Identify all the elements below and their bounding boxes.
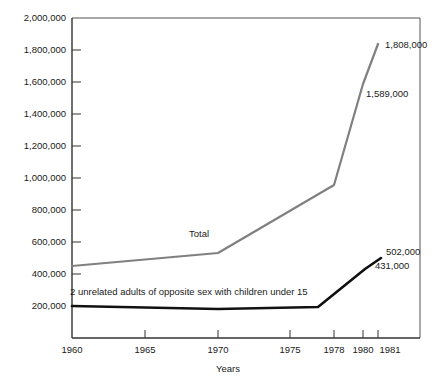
data-label-unrelated-1981: 502,000 [386, 246, 420, 257]
y-tick-label-400000: 400,000 [32, 268, 66, 279]
series-label-total: Total [189, 228, 209, 239]
x-tick-label-1980: 1980 [352, 344, 373, 355]
data-label-total-1981: 1,808,000 [385, 39, 427, 50]
x-axis-title: Years [216, 363, 240, 374]
x-tick-label-1960: 1960 [61, 344, 82, 355]
y-tick-label-1800000: 1,800,000 [24, 44, 66, 55]
y-tick-label-1000000: 1,000,000 [24, 172, 66, 183]
y-tick-label-2000000: 2,000,000 [24, 12, 66, 23]
y-tick-label-200000: 200,000 [32, 300, 66, 311]
x-tick-label-1965: 1965 [134, 344, 155, 355]
y-tick-label-1400000: 1,400,000 [24, 108, 66, 119]
y-tick-label-800000: 800,000 [32, 204, 66, 215]
line-chart: 2,000,000 1,800,000 1,600,000 1,400,000 … [0, 0, 445, 383]
x-tick-label-1970: 1970 [207, 344, 228, 355]
data-label-total-1980: 1,589,000 [366, 88, 408, 99]
y-tick-label-1200000: 1,200,000 [24, 140, 66, 151]
x-tick-label-1981: 1981 [379, 344, 400, 355]
x-tick-label-1975: 1975 [279, 344, 300, 355]
series-label-unrelated-adults: 2 unrelated adults of opposite sex with … [70, 286, 308, 297]
data-label-unrelated-1980: 431,000 [375, 260, 409, 271]
chart-background [0, 0, 445, 383]
y-tick-label-1600000: 1,600,000 [24, 76, 66, 87]
y-tick-label-600000: 600,000 [32, 236, 66, 247]
x-tick-label-1978: 1978 [323, 344, 344, 355]
chart-container: 2,000,000 1,800,000 1,600,000 1,400,000 … [0, 0, 445, 383]
